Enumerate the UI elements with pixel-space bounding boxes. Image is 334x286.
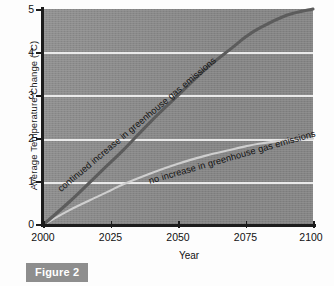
y-tick-mark-4 [36,52,42,54]
x-tick-mark-2025 [111,221,113,228]
x-axis-title-text: Year [179,250,199,261]
y-tick-label-5: 5 [20,3,34,15]
y-tick-mark-2 [36,138,42,140]
x-tick-label-2075: 2075 [226,231,266,243]
figure-container: Average Temperature Change (°C) continue… [0,0,334,286]
x-tick-label-2050: 2050 [158,231,198,243]
chart-curves [43,9,313,225]
x-tick-mark-2000 [43,221,45,228]
x-tick-mark-2050 [178,221,180,228]
y-tick-mark-0 [36,224,42,226]
curve-no-increase-in-greenhouse-gas-emissions [43,139,313,225]
x-tick-label-2000: 2000 [23,231,63,243]
x-axis-title: Year [0,250,334,261]
y-tick-label-1: 1 [20,175,34,187]
y-tick-label-2: 2 [20,132,34,144]
y-tick-label-4: 4 [20,46,34,58]
y-tick-mark-1 [36,181,42,183]
y-tick-mark-5 [36,9,42,11]
x-tick-label-2025: 2025 [91,231,131,243]
figure-caption-badge: Figure 2 [27,264,87,281]
x-tick-mark-2100 [313,221,315,228]
x-tick-label-2100: 2100 [291,231,331,243]
curve-continued-increase-in-greenhouse-gas-emissions [43,9,313,225]
x-tick-mark-2075 [246,221,248,228]
y-tick-label-0: 0 [20,218,34,230]
y-tick-mark-3 [36,95,42,97]
y-tick-label-3: 3 [20,89,34,101]
plot-area: continued increase in greenhouse gas emi… [43,9,313,225]
y-axis-line [41,7,44,227]
